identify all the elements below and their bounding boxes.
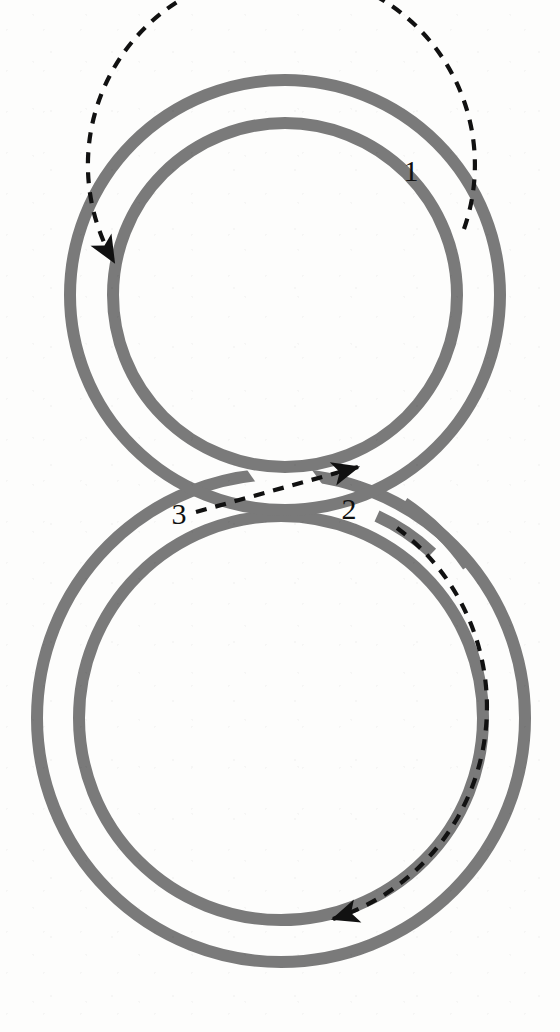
upper-loop-group	[70, 80, 500, 510]
step-label-2: 2	[342, 492, 357, 525]
step-label-3: 3	[172, 497, 187, 530]
step-label-1: 1	[404, 154, 419, 187]
upper-loop-outer-band	[70, 80, 500, 510]
figure8-canvas: Figure-eight double loop path diagram Tw…	[0, 0, 560, 1032]
lower-loop-inner-band	[79, 516, 483, 920]
figure8-diagram: Figure-eight double loop path diagram Tw…	[0, 0, 560, 1032]
lower-loop-crossing-overlay	[377, 503, 468, 566]
dashed-segment-bottom-loop	[333, 528, 487, 919]
